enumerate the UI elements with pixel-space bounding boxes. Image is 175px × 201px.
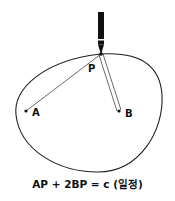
label-a: A xyxy=(32,108,40,118)
diagram-canvas xyxy=(0,0,175,201)
point-b xyxy=(117,109,120,112)
pen-icon xyxy=(98,12,104,53)
label-p: P xyxy=(88,64,95,74)
label-b: B xyxy=(125,109,133,119)
point-p xyxy=(99,52,103,56)
segment-bp-double xyxy=(99,54,121,111)
equation-caption: AP + 2BP = c (일정) xyxy=(0,176,175,191)
point-a xyxy=(24,109,27,112)
